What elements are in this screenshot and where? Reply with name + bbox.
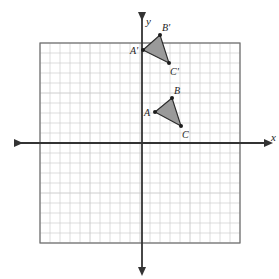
plot-canvas	[0, 0, 279, 279]
vertex-label-b-prime: B'	[162, 23, 170, 33]
vertex-label-b: B	[174, 86, 180, 96]
vertex-dot-a	[153, 110, 157, 114]
vertex-label-a-prime: A'	[130, 46, 138, 56]
coordinate-plane-figure: x y ABCA'B'C'	[0, 0, 279, 279]
vertex-dot-c-prime	[167, 61, 171, 65]
vertex-label-c-prime: C'	[170, 67, 179, 77]
vertex-dot-b-prime	[158, 33, 162, 37]
vertex-dot-a-prime	[141, 48, 145, 52]
vertex-label-c: C	[182, 130, 189, 140]
y-axis-label: y	[146, 16, 151, 27]
x-axis-label: x	[271, 132, 276, 143]
vertex-dot-c	[179, 124, 183, 128]
vertex-label-a: A	[144, 108, 150, 118]
triangle-abc	[155, 98, 181, 126]
vertex-dot-b	[170, 96, 174, 100]
triangle-a-prime-b-prime-c-prime	[143, 35, 169, 63]
